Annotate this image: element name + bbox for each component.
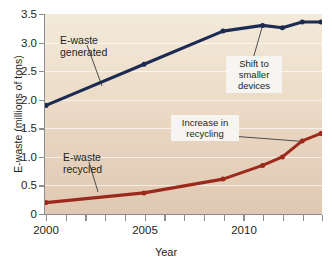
x-tick-2001 — [66, 215, 67, 221]
y-tick-label-3.5: 3.5 — [3, 9, 37, 19]
x-axis-title: Year — [0, 246, 332, 258]
y-tick-1.5 — [39, 128, 45, 129]
x-tick-2000 — [46, 215, 47, 221]
x-tick-2014 — [322, 215, 323, 221]
x-tick-label-2000: 2000 — [33, 224, 59, 236]
x-tick-2009 — [224, 215, 225, 221]
y-tick-2.5 — [39, 71, 45, 72]
callout-increase-in-recycling: Increase in recycling — [171, 115, 239, 141]
x-tick-2003 — [105, 215, 106, 221]
y-tick-3.0 — [39, 43, 45, 44]
x-tick-2002 — [85, 215, 86, 221]
x-tick-2012 — [283, 215, 284, 221]
y-tick-3.5 — [39, 14, 45, 15]
x-tick-2010 — [243, 215, 244, 221]
x-tick-2011 — [263, 215, 264, 221]
y-tick-0 — [39, 214, 45, 215]
x-tick-2006 — [164, 215, 165, 221]
y-tick-1.0 — [39, 157, 45, 158]
callout-shift-to-smaller-devices: Shift to smaller devices — [226, 56, 282, 93]
y-axis-title: E-waste (millions of tons) — [12, 34, 24, 194]
x-tick-label-2010: 2010 — [231, 224, 257, 236]
x-tick-label-2005: 2005 — [132, 224, 158, 236]
plot-area: E-waste generated E-waste recycled Shift… — [45, 14, 322, 214]
x-tick-2013 — [303, 215, 304, 221]
x-tick-2008 — [204, 215, 205, 221]
y-tick-label-0: 0 — [3, 209, 37, 219]
series-label-generated: E-waste generated — [60, 35, 107, 58]
y-tick-0.5 — [39, 185, 45, 186]
x-tick-2007 — [184, 215, 185, 221]
series-label-recycled: E-waste recycled — [63, 152, 102, 175]
x-tick-2005 — [145, 215, 146, 221]
leader-line-increase — [231, 136, 302, 141]
x-tick-2004 — [125, 215, 126, 221]
ewaste-line-chart: E-waste generated E-waste recycled Shift… — [0, 0, 332, 265]
y-tick-2.0 — [39, 100, 45, 101]
